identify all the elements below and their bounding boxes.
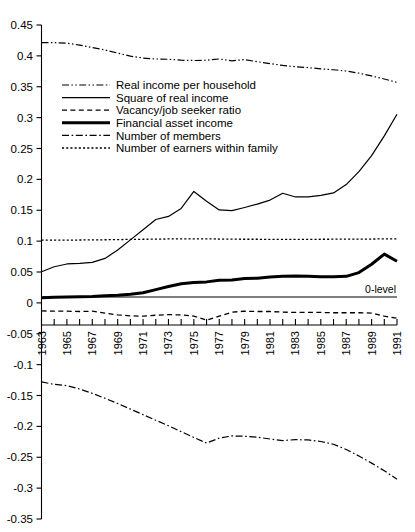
x-axis-ticks — [42, 319, 398, 325]
y-axis-tick-label: 0.15 — [11, 204, 33, 216]
legend-label: Square of real income — [116, 92, 229, 104]
zero-level-annotation: 0-level — [365, 283, 396, 295]
series-line — [42, 254, 398, 298]
x-axis-tick-label: 1973 — [162, 331, 174, 355]
y-axis-tick-label: -0.25 — [7, 451, 33, 463]
x-axis-tick-label: 1981 — [264, 331, 276, 355]
x-axis-tick-label: 1963 — [36, 331, 48, 355]
y-axis-ticks — [37, 25, 42, 519]
legend-label: Number of members — [116, 130, 221, 142]
y-axis-tick-label: 0.05 — [11, 266, 33, 278]
y-axis-tick-label: 0 — [27, 297, 33, 309]
x-axis-tick-label: 1975 — [188, 331, 200, 355]
y-axis-tick-label: 0.2 — [17, 173, 33, 185]
x-axis-tick-label: 1971 — [137, 331, 149, 355]
y-axis-tick-label: -0.3 — [13, 482, 33, 494]
x-axis-tick-label: 1969 — [112, 331, 124, 355]
y-axis-tick-label: 0.4 — [17, 50, 34, 62]
x-axis-tick-label: 1983 — [289, 331, 301, 355]
legend-label: Number of earners within family — [116, 142, 278, 154]
y-axis-tick-label: -0.2 — [13, 420, 33, 432]
y-axis-tick-label: 0.35 — [11, 81, 33, 93]
legend-label: Vacancy/job seeker ratio — [116, 104, 241, 116]
x-axis-tick-label: 1979 — [239, 331, 251, 355]
x-axis-tick-label: 1987 — [340, 331, 352, 355]
chart-legend: Real income per householdSquare of real … — [62, 79, 278, 154]
y-axis-tick-label: -0.15 — [7, 390, 33, 402]
y-axis-tick-label: 0.25 — [11, 143, 33, 155]
legend-label: Financial asset income — [116, 117, 233, 129]
x-axis-tick-label: 1965 — [61, 331, 73, 355]
y-axis-tick-label: -0.35 — [7, 513, 33, 525]
y-axis-tick-label: -0.05 — [7, 328, 33, 340]
series-line — [42, 382, 398, 479]
chart-figure: 0.450.40.350.30.250.20.150.10.050-0.05-0… — [0, 0, 415, 532]
y-axis-tick-label: 0.1 — [17, 235, 33, 247]
y-axis-tick-label: 0.45 — [11, 19, 33, 31]
x-axis-group: 1963196519671969197119731975197719791981… — [36, 319, 404, 355]
legend-label: Real income per household — [116, 79, 256, 91]
x-axis-tick-label: 1977 — [213, 331, 225, 355]
line-chart-canvas: 0.450.40.350.30.250.20.150.10.050-0.05-0… — [0, 0, 415, 532]
series-line — [42, 43, 398, 83]
y-axis-tick-label: -0.1 — [13, 359, 33, 371]
x-axis-tick-label: 1989 — [366, 331, 378, 355]
x-axis-tick-label: 1985 — [315, 331, 327, 355]
y-axis-group: 0.450.40.350.30.250.20.150.10.050-0.05-0… — [7, 19, 42, 525]
y-axis-tick-label: 0.3 — [17, 112, 33, 124]
x-axis-tick-label: 1967 — [86, 331, 98, 355]
series-line — [42, 311, 398, 320]
series-line — [42, 239, 398, 240]
x-axis-tick-labels: 1963196519671969197119731975197719791981… — [36, 331, 404, 355]
y-axis-tick-labels: 0.450.40.350.30.250.20.150.10.050-0.05-0… — [7, 19, 34, 525]
x-axis-tick-label: 1991 — [391, 331, 403, 355]
